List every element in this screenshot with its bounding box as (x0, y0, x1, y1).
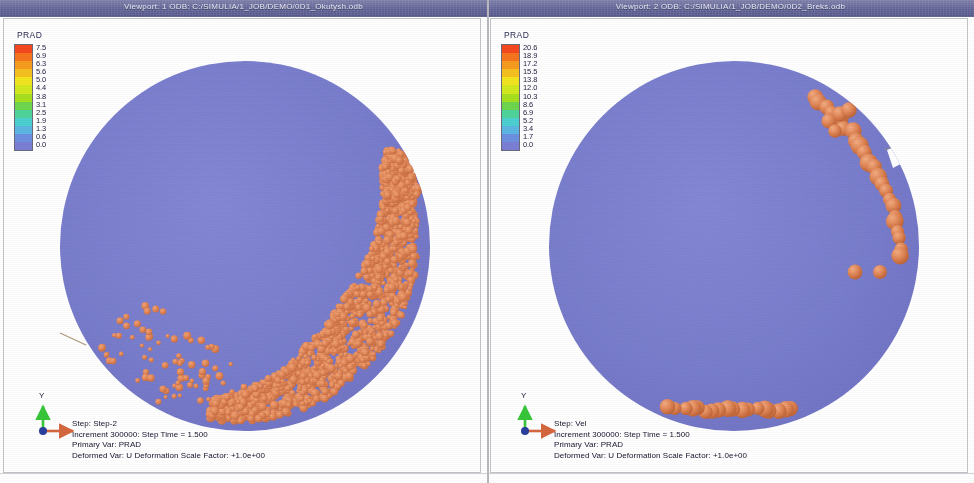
particle (156, 341, 161, 346)
particle (335, 372, 343, 380)
particle (289, 375, 298, 384)
particle (327, 364, 336, 373)
viewport-divider (487, 0, 489, 483)
status-primary-var-1: Primary Var: PRAD (72, 440, 265, 451)
particle (377, 227, 385, 235)
particle (347, 364, 354, 371)
abaqus-dual-viewport-window: Viewport: 1 ODB: C:/SIMULIA/1_JOB/DEMO/0… (0, 0, 974, 483)
particle (374, 348, 379, 353)
particle (194, 384, 199, 389)
particle (369, 246, 374, 251)
particle (383, 264, 388, 269)
particle (360, 291, 367, 298)
legend-title-2: PRAD (504, 30, 537, 40)
particle (346, 355, 354, 363)
particle (378, 216, 384, 222)
particle (296, 356, 301, 361)
particle (405, 180, 411, 186)
particle (198, 337, 206, 345)
particle (370, 256, 375, 261)
particle (300, 401, 305, 406)
particle (152, 306, 159, 313)
particle (361, 322, 367, 328)
viewport-1-titlebar[interactable]: Viewport: 1 ODB: C:/SIMULIA/1_JOB/DEMO/0… (0, 0, 487, 17)
particle (388, 283, 396, 291)
particle (135, 378, 140, 383)
particle (177, 368, 184, 375)
particle (414, 228, 418, 232)
legend-swatch (502, 61, 519, 69)
particle (104, 352, 109, 357)
particle (134, 320, 141, 327)
particle (313, 371, 321, 379)
legend-swatch (15, 94, 32, 102)
particle (202, 377, 209, 384)
particle (299, 396, 305, 402)
particle (212, 399, 220, 407)
legend-colorbar-2 (501, 44, 520, 151)
particle (367, 291, 374, 298)
particle (390, 147, 397, 154)
viewport-panel-1[interactable]: Viewport: 1 ODB: C:/SIMULIA/1_JOB/DEMO/0… (0, 0, 487, 483)
particle (327, 359, 332, 364)
particle (392, 217, 401, 226)
particle (149, 357, 154, 362)
legend-swatch (15, 45, 32, 53)
particle (190, 379, 195, 384)
legend-swatch (15, 134, 32, 142)
viewport-1-legend: PRAD 7.56.96.35.65.04.43.83.12.51.91.30.… (14, 30, 46, 151)
particle (362, 349, 369, 356)
particle (399, 293, 408, 302)
viewport-2-titlebar[interactable]: Viewport: 2 ODB: C:/SIMULIA/1_JOB/DEMO/0… (487, 0, 974, 17)
status-step-2: Step: Vel (554, 419, 747, 430)
particle (402, 302, 406, 306)
particle (372, 285, 377, 290)
legend-swatch (502, 134, 519, 142)
legend-colorbar-1 (14, 44, 33, 151)
particle (166, 334, 170, 338)
particle (375, 265, 383, 273)
particle (372, 325, 376, 329)
viewport-2-title: Viewport: 2 ODB: C:/SIMULIA/1_JOB/DEMO/0… (487, 2, 974, 11)
particle (398, 224, 403, 229)
triad-y-label-1: Y (39, 391, 44, 400)
particle (398, 151, 405, 158)
legend-swatch (502, 85, 519, 93)
particle (275, 387, 280, 392)
particle (367, 286, 374, 293)
particle (361, 267, 369, 275)
viewport-1-title: Viewport: 1 ODB: C:/SIMULIA/1_JOB/DEMO/0… (0, 2, 487, 11)
legend-tick-label: 0.0 (36, 141, 46, 149)
legend-ticklabels-1: 7.56.96.35.65.04.43.83.12.51.91.30.60.0 (36, 44, 46, 149)
particle (339, 304, 344, 309)
particle (236, 400, 240, 404)
particle (370, 273, 375, 278)
particle (303, 354, 308, 359)
particle (308, 344, 315, 351)
particle (171, 335, 178, 342)
particle (891, 247, 909, 265)
particle (410, 252, 418, 260)
particle (335, 312, 340, 317)
particle (400, 232, 408, 240)
particle (406, 165, 414, 173)
particle (142, 355, 147, 360)
particle (366, 311, 373, 318)
viewport-panel-2[interactable]: Viewport: 2 ODB: C:/SIMULIA/1_JOB/DEMO/0… (487, 0, 974, 483)
particle (384, 258, 391, 265)
particle (146, 329, 153, 336)
particle (392, 207, 399, 214)
particle (259, 403, 267, 411)
particle (332, 340, 341, 349)
legend-swatch (15, 77, 32, 85)
particle (253, 387, 258, 392)
particle (123, 322, 130, 329)
particle (892, 231, 905, 244)
particle (98, 344, 106, 352)
particle (164, 395, 168, 399)
particle (140, 344, 144, 348)
particle (393, 240, 399, 246)
particle (828, 124, 842, 138)
particle (251, 401, 256, 406)
particle (148, 347, 152, 351)
